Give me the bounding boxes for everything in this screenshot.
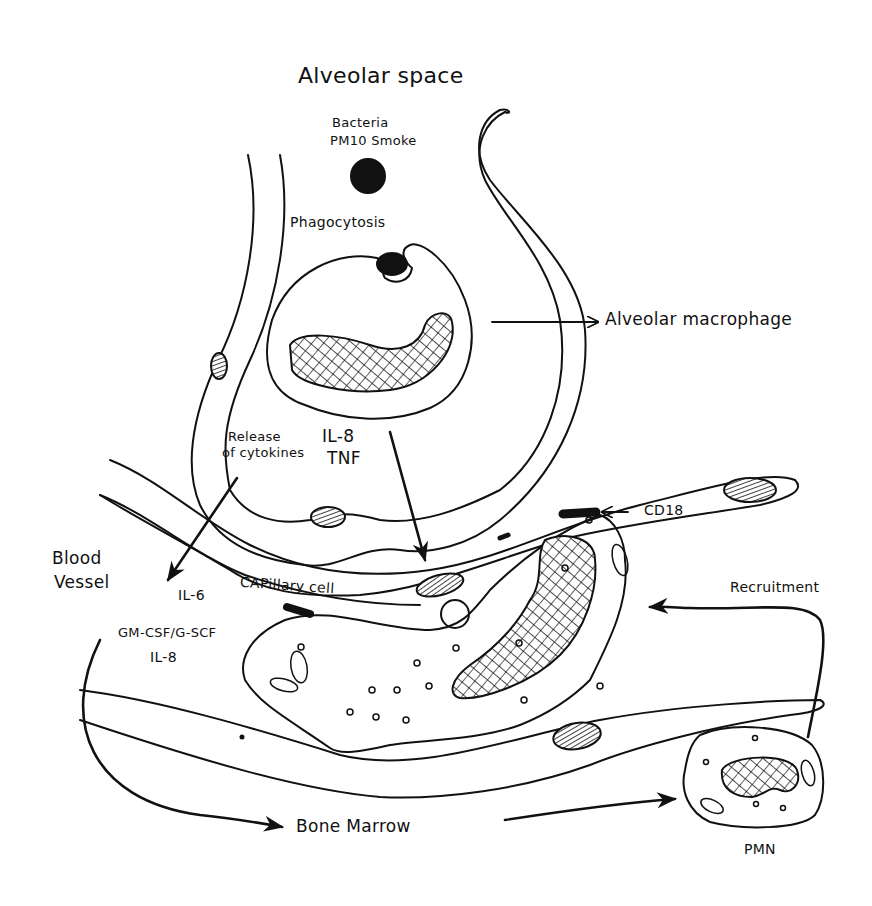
label-tnf: TNF	[327, 450, 361, 468]
adherent-neutrophil	[243, 515, 631, 752]
lower-vessel-wall	[80, 690, 824, 798]
lower-endothelial-nucleus	[551, 719, 603, 753]
label-pm10-smoke: PM10 Smoke	[330, 134, 417, 148]
recruitment-arrow	[650, 607, 823, 737]
label-vessel: Vessel	[54, 574, 109, 592]
alveolar-wall	[192, 110, 586, 566]
engulfed-particle	[377, 253, 407, 275]
wall-nucleus-bottom	[311, 507, 345, 527]
cd18-adhesion-point	[563, 512, 596, 514]
label-il8-top: IL-8	[322, 428, 354, 446]
label-il6: IL-6	[178, 588, 205, 603]
label-blood: Blood	[52, 550, 101, 568]
label-release: Release	[228, 430, 281, 444]
label-phagocytosis: Phagocytosis	[290, 215, 385, 230]
bone-marrow-arrow	[83, 640, 282, 827]
diagram-drawing	[0, 0, 872, 906]
cytokine-release-arrow	[168, 478, 237, 580]
pmn-nucleus	[722, 758, 798, 797]
label-pmn: PMN	[744, 842, 776, 857]
label-alveolar-space: Alveolar space	[298, 64, 464, 87]
diagram-canvas: Alveolar space Bacteria PM10 Smoke Phago…	[0, 0, 872, 906]
il8-tnf-arrow	[390, 432, 425, 560]
label-recruitment: Recruitment	[730, 580, 819, 595]
label-cd18: CD18	[644, 503, 684, 518]
adhesion-point-left	[287, 607, 310, 614]
pmn-cell	[684, 727, 824, 827]
label-of-cytokines: of cytokines	[222, 446, 304, 460]
endothelial-nucleus-right	[724, 478, 776, 502]
label-alveolar-macrophage: Alveolar macrophage	[605, 311, 792, 329]
label-il8-bottom: IL-8	[150, 650, 177, 665]
endothelial-nucleus-center	[414, 569, 466, 601]
label-bone-marrow: Bone Marrow	[296, 818, 411, 836]
bacteria-particle	[351, 159, 385, 193]
pmn-release-arrow	[505, 799, 675, 820]
label-bacteria: Bacteria	[332, 116, 388, 130]
label-gm-csf: GM-CSF/G-SCF	[118, 626, 216, 640]
macrophage-nucleus	[290, 313, 453, 391]
alveolar-macrophage-cell	[267, 244, 472, 418]
wall-nucleus-left	[211, 353, 227, 379]
